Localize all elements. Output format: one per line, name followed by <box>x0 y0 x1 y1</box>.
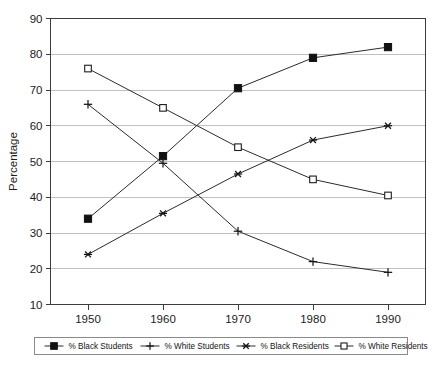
marker-filled-square <box>234 85 241 92</box>
marker-filled-square <box>384 44 391 51</box>
y-axis-tick-labels: 102030405060708090 <box>30 13 43 311</box>
y-tick-label: 10 <box>30 299 43 311</box>
series-group <box>84 44 392 277</box>
x-tick-label: 1980 <box>300 313 326 325</box>
gridlines-group <box>51 19 426 305</box>
x-tick-label: 1960 <box>150 313 176 325</box>
y-axis-title: Percentage <box>7 132 19 191</box>
marker-open-square <box>385 192 392 199</box>
marker-open-square <box>310 176 317 183</box>
marker-filled-square <box>309 54 316 61</box>
marker-star <box>309 137 317 143</box>
marker-plus <box>309 257 317 265</box>
marker-filled-square <box>51 343 58 350</box>
y-tick-label: 80 <box>30 48 43 60</box>
marker-open-square <box>85 65 92 72</box>
y-tick-label: 90 <box>30 13 43 25</box>
series-line <box>88 104 388 272</box>
marker-open-square <box>235 144 242 151</box>
y-tick-label: 20 <box>30 263 43 275</box>
marker-open-square <box>160 105 167 112</box>
marker-star <box>84 251 92 257</box>
marker-filled-square <box>84 215 91 222</box>
legend-item-label: % Black Residents <box>261 342 329 351</box>
y-tick-label: 50 <box>30 156 43 168</box>
legend-item-1[interactable]: % Black Students <box>45 342 133 351</box>
y-tick-label: 30 <box>30 227 43 239</box>
x-tick-label: 1950 <box>75 313 101 325</box>
x-tick-label: 1970 <box>225 313 251 325</box>
x-axis-ticks <box>88 305 388 310</box>
x-tick-label: 1990 <box>375 313 401 325</box>
marker-plus <box>384 268 392 276</box>
x-axis-tick-labels: 19501960197019801990 <box>75 313 401 325</box>
series-line <box>88 47 388 219</box>
marker-filled-square <box>159 153 166 160</box>
y-tick-label: 40 <box>30 191 43 203</box>
marker-star <box>159 210 167 216</box>
marker-star <box>234 171 242 177</box>
chart-canvas: 102030405060708090 19501960197019801990 … <box>0 0 442 369</box>
y-tick-label: 60 <box>30 120 43 132</box>
marker-star <box>384 123 392 129</box>
y-tick-label: 70 <box>30 84 43 96</box>
marker-open-square <box>341 343 347 349</box>
y-axis-ticks <box>46 19 51 305</box>
legend-item-label: % White Residents <box>359 342 428 351</box>
series-3 <box>84 123 392 258</box>
legend-item-label: % Black Students <box>69 342 133 351</box>
y-axis-label: Percentage <box>7 132 19 191</box>
series-1 <box>84 44 391 223</box>
legend-item-label: % White Students <box>165 342 230 351</box>
line-chart: 102030405060708090 19501960197019801990 … <box>0 0 442 369</box>
chart-legend: % Black Students% White Students% Black … <box>35 338 428 355</box>
series-2 <box>84 100 392 276</box>
